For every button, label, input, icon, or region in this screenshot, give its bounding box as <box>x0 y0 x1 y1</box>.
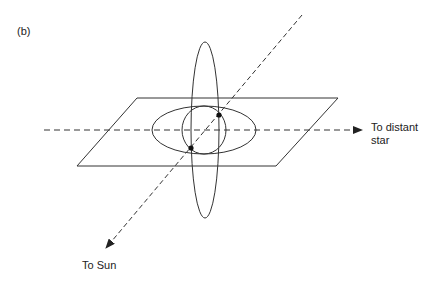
orbit-diagram: (b) To distant star To Sun <box>0 0 432 282</box>
sun-label: To Sun <box>82 259 116 272</box>
intersection-point-upper <box>216 112 221 117</box>
ecliptic-plane <box>77 98 338 166</box>
line-to-sun <box>106 15 302 248</box>
intersection-point-lower <box>188 145 193 150</box>
diagram-canvas <box>0 0 432 282</box>
panel-label: (b) <box>17 25 30 38</box>
distant-star-label-line2: star <box>371 134 389 147</box>
distant-star-label-line1: To distant <box>371 121 418 134</box>
